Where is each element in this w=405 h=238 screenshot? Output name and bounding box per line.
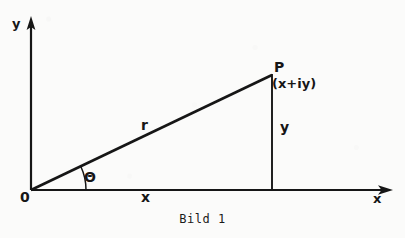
polar-coordinate-diagram: y 0 x P (x+iy) r y x Θ Bild 1 xyxy=(0,0,405,238)
y-axis xyxy=(27,16,36,190)
diagram-canvas xyxy=(0,0,405,238)
x-axis-label: x xyxy=(373,192,381,205)
origin-label: 0 xyxy=(20,190,30,204)
y-axis-label: y xyxy=(12,17,20,30)
point-p-label: P xyxy=(274,60,284,74)
figure-caption: Bild 1 xyxy=(0,212,405,226)
radius-line xyxy=(31,75,272,190)
point-coordinate-label: (x+iy) xyxy=(272,77,316,90)
radius-label: r xyxy=(141,118,148,132)
opposite-side-label: y xyxy=(280,120,289,134)
theta-angle-label: Θ xyxy=(84,170,96,184)
adjacent-side-label: x xyxy=(141,190,150,204)
